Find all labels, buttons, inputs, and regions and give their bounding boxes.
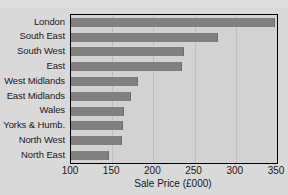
bar <box>71 18 275 27</box>
bar <box>71 33 218 42</box>
y-axis-label: London <box>0 14 68 29</box>
y-axis-label: West Midlands <box>0 73 68 88</box>
y-axis-label: South East <box>0 29 68 44</box>
bar <box>71 151 109 160</box>
bar-row <box>71 59 277 74</box>
y-axis-label: North East <box>0 147 68 162</box>
y-axis-label: East Midlands <box>0 88 68 103</box>
bar-row <box>71 15 277 30</box>
y-axis-category-labels: LondonSouth EastSouth WestEastWest Midla… <box>0 14 68 162</box>
bar <box>71 62 182 71</box>
x-axis-tick: 300 <box>226 164 243 177</box>
x-axis-title: Sale Price (£000) <box>70 178 276 190</box>
y-axis-label: North West <box>0 132 68 147</box>
plot-area <box>70 14 278 164</box>
bar <box>71 136 122 145</box>
bar-row <box>71 30 277 45</box>
bar <box>71 77 138 86</box>
x-axis-tick: 200 <box>144 164 161 177</box>
x-axis-tick: 350 <box>268 164 285 177</box>
top-band <box>0 0 288 8</box>
x-axis-tick: 250 <box>185 164 202 177</box>
bar-row <box>71 89 277 104</box>
bar-row <box>71 119 277 134</box>
bar-row <box>71 74 277 89</box>
bar-row <box>71 133 277 148</box>
y-axis-label: South West <box>0 44 68 59</box>
bar <box>71 92 131 101</box>
x-axis-tick: 150 <box>103 164 120 177</box>
x-axis-tick-labels: 100150200250300350 <box>70 164 276 177</box>
bar-row <box>71 148 277 163</box>
bar-chart: LondonSouth EastSouth WestEastWest Midla… <box>0 0 288 195</box>
bar <box>71 121 123 130</box>
y-axis-label: Wales <box>0 103 68 118</box>
y-axis-label: East <box>0 58 68 73</box>
y-axis-label: Yorks & Humb. <box>0 118 68 133</box>
bar <box>71 107 124 116</box>
bar-series <box>71 15 277 163</box>
bar-row <box>71 45 277 60</box>
x-axis-tick: 100 <box>62 164 79 177</box>
bar <box>71 47 184 56</box>
bar-row <box>71 104 277 119</box>
